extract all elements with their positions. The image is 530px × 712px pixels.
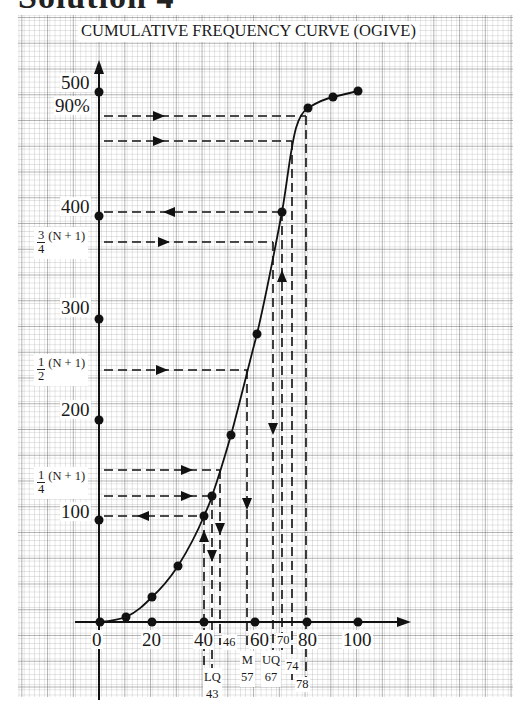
lq-value: 43 [204,686,221,703]
data-point [227,431,236,440]
x-annotation-78: 78 [295,677,310,692]
fraction-numerator: 1 [37,356,45,370]
y-marker-three-quarter: 3 (N + 1) 4 [34,227,88,259]
x-annotation-46: 46 [222,635,237,650]
y-marker-90-percent: 90% [54,96,91,115]
fraction-denominator: 4 [37,483,85,497]
lq-name: LQ [204,669,221,686]
x-tick-60: 60 [249,630,270,649]
data-point [148,593,157,602]
x-tick-40: 40 [193,630,214,649]
y-tick-200: 200 [60,400,91,419]
graph-paper-grid [18,15,513,697]
fraction-numerator: 3 [37,229,45,243]
uq-value: 67 [262,669,280,686]
data-point [278,208,287,217]
x-annotation-70: 70 [276,633,291,648]
fraction-rest: (N + 1) [48,470,85,483]
y-marker-half: 1 (N + 1) 2 [34,354,88,386]
median-label: M 57 [240,651,255,687]
fraction-rest: (N + 1) [48,230,85,243]
x-tick-20: 20 [141,630,162,649]
fraction-numerator: 1 [37,469,45,483]
data-point [208,492,217,501]
fraction-rest: (N + 1) [48,357,85,370]
y-tick-100: 100 [60,502,91,521]
y-tick-400: 400 [60,197,91,216]
data-point [122,613,131,622]
x-tick-0: 0 [91,630,103,649]
lower-quartile-label: LQ 43 [203,668,222,704]
uq-name: UQ [262,652,280,669]
median-name: M [241,652,254,669]
data-point [200,512,209,521]
y-marker-one-quarter: 1 (N + 1) 4 [34,467,88,499]
median-value: 57 [241,669,254,686]
data-point [96,618,105,627]
fraction-denominator: 4 [37,243,85,257]
data-point [304,104,313,113]
upper-quartile-label: UQ 67 [261,651,281,687]
y-tick-300: 300 [60,298,91,317]
data-point [354,87,363,96]
x-tick-100: 100 [342,630,373,649]
chart-title: CUMULATIVE FREQUENCY CURVE (OGIVE) [78,21,419,42]
data-point [329,93,338,102]
y-tick-500: 500 [60,73,91,92]
x-tick-80: 80 [297,630,318,649]
x-annotation-74: 74 [285,659,300,674]
data-point [174,562,183,571]
fraction-denominator: 2 [37,370,85,384]
data-point [253,330,262,339]
